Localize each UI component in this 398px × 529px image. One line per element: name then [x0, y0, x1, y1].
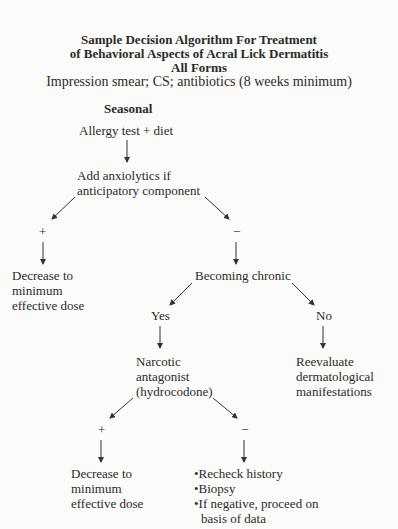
arrow-chronic-no — [292, 283, 314, 305]
arrow-narcotic-minus — [213, 398, 237, 418]
arrow-anxiolytics-plus — [52, 197, 75, 219]
arrow-anxiolytics-minus — [205, 197, 229, 219]
arrow-chronic-yes — [170, 283, 192, 305]
arrow-narcotic-plus — [110, 398, 133, 418]
flow-arrows — [0, 0, 398, 529]
